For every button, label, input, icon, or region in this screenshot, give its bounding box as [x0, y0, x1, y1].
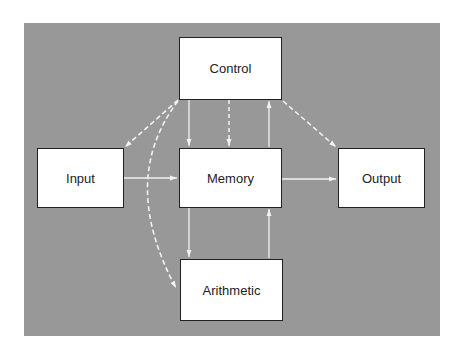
output-box: Output — [338, 148, 425, 208]
arrow-control-to-input — [125, 100, 178, 147]
arithmetic-label: Arithmetic — [203, 283, 261, 298]
output-label: Output — [362, 171, 401, 186]
arrow-control-to-output — [283, 101, 336, 147]
memory-box: Memory — [179, 148, 282, 208]
control-label: Control — [210, 61, 252, 76]
control-box: Control — [179, 37, 282, 100]
input-box: Input — [37, 148, 124, 208]
arrow-control-to-arithmetic — [147, 101, 178, 288]
input-label: Input — [66, 171, 95, 186]
memory-label: Memory — [207, 171, 254, 186]
arithmetic-box: Arithmetic — [180, 259, 283, 321]
